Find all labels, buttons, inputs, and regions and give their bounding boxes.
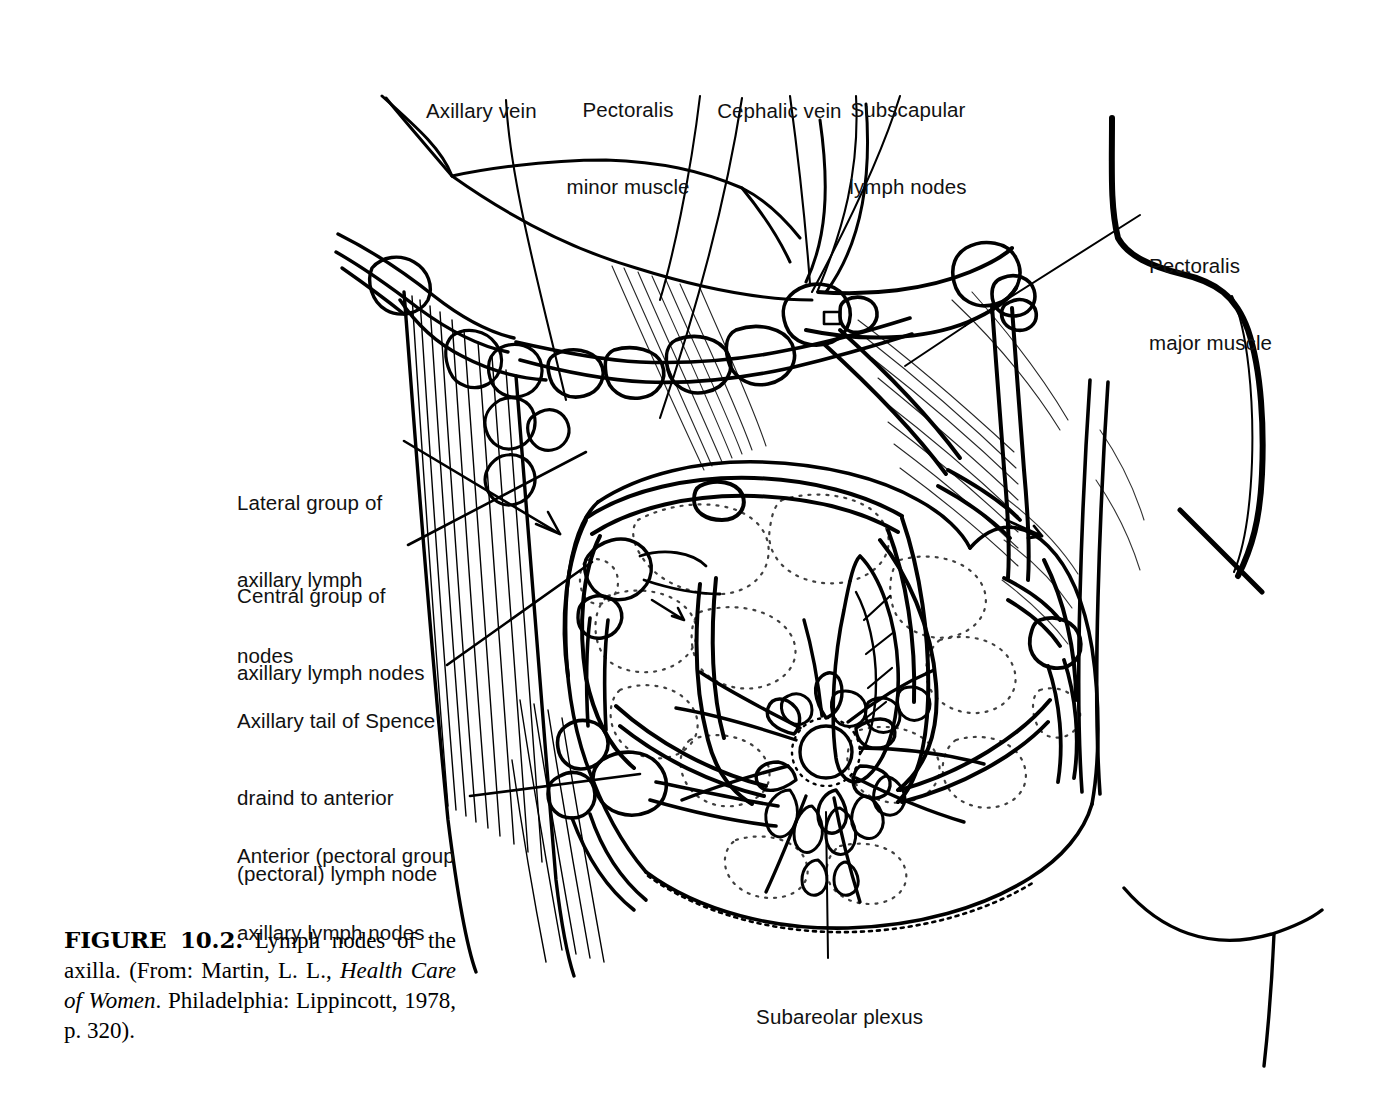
label-pectoralis-major-line1: Pectoralis [1149,253,1329,279]
label-anterior-pectoral-line1: Anterior (pectoral group [237,843,487,869]
body-contour-lower-right [1124,888,1322,1066]
label-axillary-tail-line1: Axillary tail of Spence [237,708,487,734]
label-cephalic-vein: Cephalic vein [694,72,828,149]
figure-number: FIGURE 10.2. [64,926,243,953]
label-axillary-vein-text: Axillary vein [426,99,537,122]
areola-dotted [792,718,860,786]
arch-descend-2 [1012,308,1029,580]
lat-node-1 [1030,618,1081,668]
deltoid-fold [742,188,790,262]
node-c3 [666,336,730,392]
label-central-group-line1: Central group of [237,583,467,609]
chest-wall-vessel [1079,380,1108,794]
label-cephalic-vein-text: Cephalic vein [717,99,841,122]
figure-container: Axillary vein Pectoralis minor muscle Ce… [0,0,1383,1110]
label-subareolar-plexus-text: Subareolar plexus [756,1005,923,1028]
plexus-radiating-ducts [676,620,984,902]
figure-caption: FIGURE 10.2. Lymph nodes of the axilla. … [64,925,456,1046]
vessel-center-up-2 [713,578,724,738]
label-lateral-group-line1: Lateral group of [237,490,437,516]
ant-lower-hook-2 [590,814,646,900]
label-axillary-vein: Axillary vein [404,72,534,149]
label-pectoralis-minor: Pectoralis minor muscle [554,46,702,250]
abdomen-curve [1124,888,1322,940]
flank-vertical [1264,934,1274,1066]
label-subscapular-line1: Subscapular [838,97,978,123]
vessel-left-descend-b [582,536,600,678]
vessel-node-bump [694,482,744,520]
label-subscapular-lymph-nodes: Subscapular lymph nodes [838,46,978,250]
subareolar-plexus-structure [676,620,984,902]
muscle-striations-upper [612,266,766,470]
node-s2 [840,297,877,332]
axillary-vein-vessel [336,234,546,380]
label-pectoralis-major-line2: major muscle [1149,330,1329,356]
nipple [800,726,852,778]
breast-upper-border [598,462,970,548]
label-subareolar-plexus: Subareolar plexus [728,978,928,1055]
vessel-to-areola-left-2 [620,726,764,796]
node-s6-small [824,312,840,324]
plexus-petals [756,673,895,833]
breast-lobules [580,495,1080,904]
ant-node-2 [557,720,608,768]
arch-diagonal [840,330,960,458]
label-pectoralis-minor-line2: minor muscle [554,174,702,200]
label-subscapular-line2: lymph nodes [838,174,978,200]
node-c2 [605,348,663,399]
label-pectoralis-minor-line1: Pectoralis [554,97,702,123]
arch-diagonal-2 [824,344,946,474]
label-pectoralis-major: Pectoralis major muscle [1149,202,1329,406]
